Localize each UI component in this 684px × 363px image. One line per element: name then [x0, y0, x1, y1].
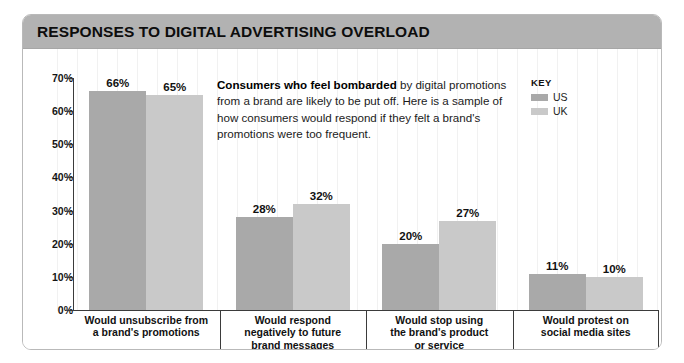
legend-title: KEY	[531, 77, 568, 88]
legend-label: US	[553, 91, 568, 103]
category-labels: Would unsubscribe froma brand's promotio…	[73, 310, 659, 350]
bar-us-2: 20%	[382, 244, 439, 310]
legend-swatch-uk	[531, 108, 548, 115]
y-axis-tick: 30%	[23, 211, 73, 212]
legend: KEY USUK	[531, 77, 568, 119]
legend-item-us: US	[531, 91, 568, 103]
y-axis-tick: 10%	[23, 277, 73, 278]
bar-us-0: 66%	[89, 91, 146, 310]
y-axis-line	[73, 78, 74, 311]
bar-uk-2: 27%	[439, 221, 496, 310]
bar-us-3: 11%	[529, 274, 586, 310]
category-divider	[220, 310, 221, 350]
category-label-line: or service	[366, 339, 513, 350]
y-axis-tick: 60%	[23, 111, 73, 112]
bar-value-label: 10%	[603, 263, 626, 275]
category-label-line: social media sites	[513, 326, 660, 338]
category-label-line: the brand's product	[366, 326, 513, 338]
bar-us-1: 28%	[236, 217, 293, 310]
y-axis-tick: 50%	[23, 144, 73, 145]
category-label-0: Would unsubscribe froma brand's promotio…	[73, 310, 220, 350]
category-divider	[513, 310, 514, 350]
bar-value-label: 28%	[253, 203, 276, 215]
legend-item-uk: UK	[531, 105, 568, 117]
bar-value-label: 11%	[546, 260, 568, 272]
bar-value-label: 65%	[163, 81, 186, 93]
category-label-3: Would protest onsocial media sites	[513, 310, 660, 350]
page-title: RESPONSES TO DIGITAL ADVERTISING OVERLOA…	[37, 23, 430, 41]
bar-value-label: 20%	[399, 230, 422, 242]
category-label-2: Would stop usingthe brand's productor se…	[366, 310, 513, 350]
category-label-line: Would protest on	[513, 314, 660, 326]
bar-value-label: 27%	[456, 207, 479, 219]
category-label-line: brand messages	[220, 339, 367, 350]
bar-value-label: 66%	[106, 77, 129, 89]
category-label-line: Would respond	[220, 314, 367, 326]
bar-value-label: 32%	[310, 190, 333, 202]
bar-uk-1: 32%	[293, 204, 350, 310]
chart-figure: RESPONSES TO DIGITAL ADVERTISING OVERLOA…	[22, 14, 662, 350]
chart-header-bar: RESPONSES TO DIGITAL ADVERTISING OVERLOA…	[23, 15, 661, 49]
annotation-text: Consumers who feel bombarded by digital …	[217, 77, 517, 143]
category-label-line: Would unsubscribe from	[73, 314, 220, 326]
legend-label: UK	[553, 105, 568, 117]
category-label-line: Would stop using	[366, 314, 513, 326]
bar-uk-3: 10%	[586, 277, 643, 310]
annotation-lead: Consumers who feel bombarded	[217, 78, 397, 91]
category-label-line: negatively to future	[220, 326, 367, 338]
bar-uk-0: 65%	[146, 95, 203, 310]
legend-swatch-us	[531, 94, 548, 101]
category-label-line: a brand's promotions	[73, 326, 220, 338]
y-axis-tick: 70%	[23, 78, 73, 79]
legend-rows: USUK	[531, 91, 568, 117]
category-label-1: Would respondnegatively to futurebrand m…	[220, 310, 367, 350]
plot-area: 70%60%50%40%30%20%10%0% 66%65%28%32%20%2…	[23, 49, 662, 350]
category-divider	[366, 310, 367, 350]
y-axis-tick: 20%	[23, 244, 73, 245]
y-axis-tick: 40%	[23, 177, 73, 178]
y-axis-tick: 0%	[23, 310, 73, 311]
